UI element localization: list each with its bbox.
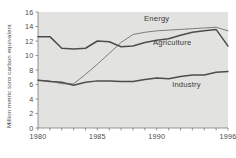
y-axis-label: Million metric tons carbon equivalent: [5, 24, 12, 128]
y-tick-label: 14: [25, 22, 33, 31]
series-label-industry: Industry: [172, 80, 201, 89]
y-tick-label: 2: [29, 109, 33, 118]
y-tick-label: 10: [25, 51, 33, 60]
y-tick-label: 12: [25, 37, 33, 46]
series-label-agriculture: Agriculture: [153, 38, 192, 47]
y-tick-label: 8: [29, 66, 33, 75]
y-tick-label: 16: [25, 8, 33, 17]
y-tick-label: 6: [29, 80, 33, 89]
x-tick-label: 1996: [220, 132, 236, 141]
plot-area-background: [38, 12, 228, 128]
x-tick-label: 1980: [30, 132, 47, 141]
x-tick-label: 1985: [89, 132, 106, 141]
y-tick-label: 4: [29, 95, 33, 104]
series-label-energy: Energy: [144, 14, 169, 23]
x-tick-label: 1990: [148, 132, 165, 141]
line-chart: 0246810121416 1980198519901996 EnergyAgr…: [0, 0, 236, 158]
chart-figure: 0246810121416 1980198519901996 EnergyAgr…: [0, 0, 236, 158]
